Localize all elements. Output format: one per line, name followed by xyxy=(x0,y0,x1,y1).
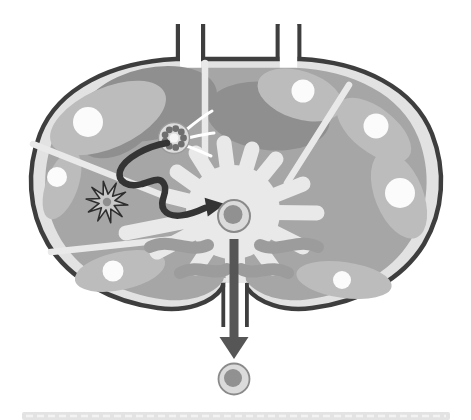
vessel-wall xyxy=(201,24,205,62)
central-lymphocyte xyxy=(218,200,250,232)
hev-cell xyxy=(180,135,187,142)
vessel-wall xyxy=(176,24,180,62)
hev-cell xyxy=(172,144,179,151)
caption-strip xyxy=(22,412,450,420)
vessel-wall xyxy=(245,283,249,327)
hev-lumen xyxy=(170,134,179,143)
vessel-wall xyxy=(276,24,280,62)
lymph-node-diagram xyxy=(0,0,471,420)
vessel-wall xyxy=(297,24,301,62)
germinal-center xyxy=(364,114,389,139)
germinal-center xyxy=(103,261,124,282)
germinal-center xyxy=(292,80,315,103)
vessel-wall xyxy=(221,283,225,327)
germinal-center xyxy=(333,271,351,289)
lymphocyte-nucleus xyxy=(224,369,242,387)
lymphocyte-nucleus xyxy=(224,205,243,224)
germinal-center xyxy=(73,107,103,137)
hev-cell xyxy=(178,129,185,136)
dendritic-cell-nucleus xyxy=(103,198,111,206)
germinal-center xyxy=(385,178,415,208)
exported-lymphocyte xyxy=(219,364,250,395)
germinal-center xyxy=(47,167,67,187)
exit-arrow-shaft xyxy=(230,239,239,339)
figure-canvas xyxy=(0,0,471,420)
hev-cell xyxy=(166,126,173,133)
